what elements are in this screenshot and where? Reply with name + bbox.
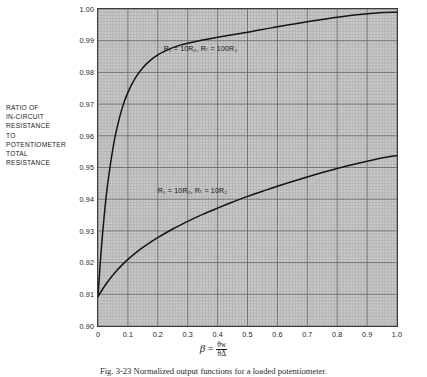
x-tick-label: 0 — [85, 330, 111, 339]
figure-container: RATIO OF IN-CIRCUIT RESISTANCE TO POTENT… — [0, 0, 427, 377]
x-tick-label: 0.1 — [115, 330, 141, 339]
x-tick-label: 0.2 — [145, 330, 171, 339]
x-axis-label: β = θw θΔ — [0, 341, 427, 359]
series-annotation-lower: R₁ = 10R₂, Rₜ = 10R₂ — [158, 187, 227, 195]
series-annotation-upper: R₁ = 10R₂, Rₜ = 100R₂ — [164, 45, 238, 53]
x-tick-label: 0.8 — [324, 330, 350, 339]
x-tick-label: 1.0 — [384, 330, 410, 339]
x-tick-label: 0.6 — [264, 330, 290, 339]
x-tick-label: 0.5 — [235, 330, 261, 339]
x-tick-label: 0.9 — [354, 330, 380, 339]
x-tick-label: 0.3 — [175, 330, 201, 339]
figure-caption: Fig. 3-23 Normalized output functions fo… — [0, 366, 427, 376]
equals-symbol: = — [208, 343, 214, 354]
beta-symbol: β — [200, 342, 205, 354]
x-tick-label: 0.4 — [205, 330, 231, 339]
theta-ratio-fraction: θw θΔ — [216, 341, 227, 359]
fraction-denominator: θΔ — [216, 350, 227, 359]
x-tick-label: 0.7 — [294, 330, 320, 339]
